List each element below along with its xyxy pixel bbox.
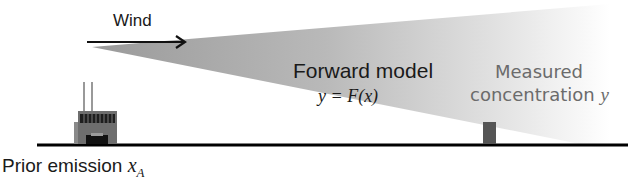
- measured-label: Measured: [495, 61, 583, 82]
- prior-emission-variable: x: [128, 154, 137, 176]
- diagram-canvas: Wind Forward model y = F(x) Measured con…: [0, 0, 631, 180]
- forward-model-title: Forward model: [293, 59, 433, 83]
- prior-emission-text: Prior emission: [2, 155, 128, 176]
- factory-icon: [74, 82, 117, 144]
- sensor-icon: [483, 122, 496, 144]
- prior-emission-subscript: A: [137, 165, 145, 180]
- wind-label: Wind: [113, 11, 152, 31]
- forward-model-equation: y = F(x): [318, 86, 378, 107]
- concentration-text: concentration: [470, 84, 600, 105]
- prior-emission-label: Prior emission xA: [2, 154, 145, 180]
- concentration-variable: y: [600, 84, 608, 105]
- concentration-label: concentration y: [470, 84, 609, 106]
